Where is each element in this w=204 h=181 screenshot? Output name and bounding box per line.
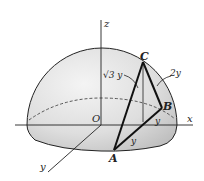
x-axis-label: x — [187, 113, 193, 124]
edge-bc-label: 2y — [169, 68, 182, 78]
z-axis-label: z — [103, 18, 110, 29]
point-b-label: B — [162, 100, 172, 113]
edge-ac-label: √3 y — [103, 70, 123, 80]
hemisphere-surface — [27, 48, 177, 151]
point-a-label: A — [108, 152, 118, 165]
edge-ab-label: y — [130, 136, 137, 146]
hemisphere-diagram: z x y O C B A √3 y 2y y y — [0, 0, 204, 181]
origin-label: O — [92, 113, 100, 124]
y-axis-label: y — [39, 161, 46, 172]
point-c-label: C — [140, 50, 149, 63]
edge-b-foot-label: y — [154, 116, 161, 126]
